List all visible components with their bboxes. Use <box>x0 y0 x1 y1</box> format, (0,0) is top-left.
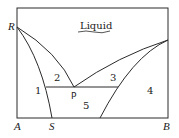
point-s-label: S <box>49 121 55 131</box>
liquid-underline <box>78 31 110 33</box>
left-liquidus-curve <box>17 27 74 87</box>
region-1-label: 1 <box>35 86 41 96</box>
point-r-label: R <box>8 21 15 31</box>
point-a-label: A <box>14 121 21 131</box>
point-p-label: P <box>71 91 76 101</box>
region-4-label: 4 <box>147 86 153 96</box>
region-5-label: 5 <box>83 101 89 111</box>
point-b-label: B <box>163 121 170 131</box>
region-3-label: 3 <box>110 73 116 83</box>
liquid-label: Liquid <box>80 21 112 31</box>
left-solidus-curve <box>17 27 52 118</box>
region-2-label: 2 <box>54 73 60 83</box>
right-liquidus-curve <box>74 40 168 87</box>
